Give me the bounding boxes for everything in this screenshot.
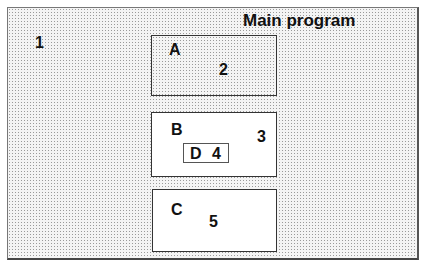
subprogram-a-number: 2 [219, 62, 228, 78]
subprogram-b-number: 3 [257, 129, 266, 145]
subprogram-d-label: D [190, 146, 202, 162]
subprogram-d-box: D 4 [183, 143, 229, 163]
subprogram-d-number: 4 [212, 146, 221, 162]
main-program-number: 1 [35, 35, 44, 51]
subprogram-c-box: C 5 [152, 189, 277, 252]
subprogram-a-box: A 2 [151, 35, 277, 96]
subprogram-c-label: C [171, 202, 183, 218]
main-program-title: Main program [243, 12, 355, 29]
subprogram-b-box: B 3 D 4 [151, 112, 277, 177]
subprogram-a-label: A [169, 42, 181, 58]
subprogram-b-label: B [171, 122, 183, 138]
subprogram-c-number: 5 [209, 214, 218, 230]
